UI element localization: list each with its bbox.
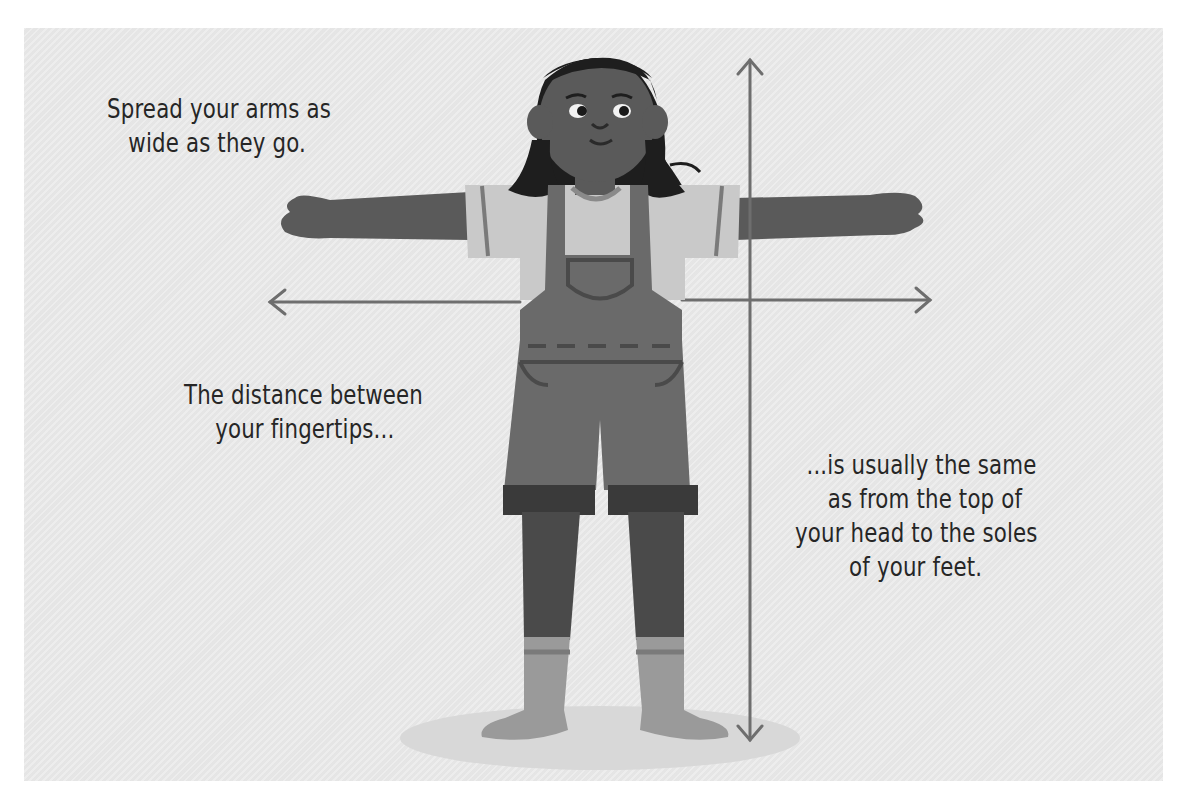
floor-shadow [400, 706, 800, 770]
caption-fingertip-distance: The distance between your fingertips... [184, 378, 423, 446]
left-arm [281, 192, 470, 240]
caption-line: wide as they go. [107, 126, 331, 160]
caption-height-comparison: ...is usually the same as from the top o… [795, 448, 1038, 584]
right-arm [735, 193, 923, 240]
caption-line: Spread your arms as [107, 92, 331, 126]
caption-line: as from the top of [795, 482, 1038, 516]
vertical-double-arrow-icon [738, 60, 762, 740]
caption-line: ...is usually the same [795, 448, 1038, 482]
caption-line: your fingertips... [184, 412, 423, 446]
caption-line: your head to the soles [795, 516, 1038, 550]
caption-line: The distance between [184, 378, 423, 412]
caption-spread-arms: Spread your arms as wide as they go. [107, 92, 331, 160]
caption-line: of your feet. [795, 550, 1038, 584]
legs [522, 512, 580, 640]
